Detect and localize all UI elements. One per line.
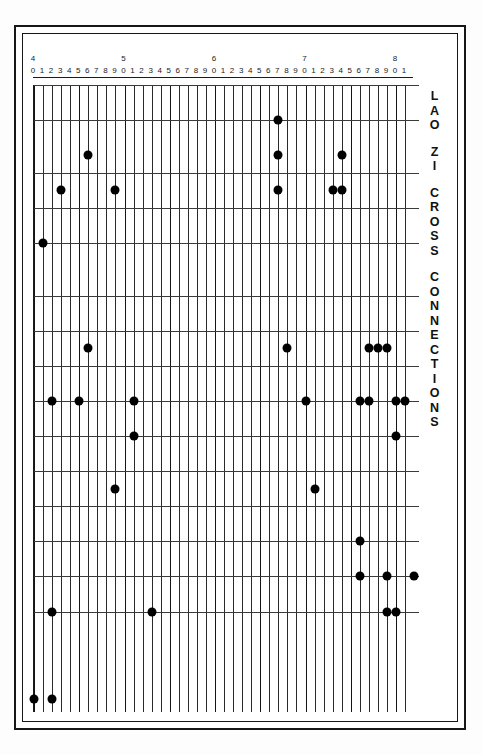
- data-point[interactable]: [283, 344, 292, 353]
- scale-unit-label: 0: [29, 66, 38, 75]
- data-point[interactable]: [337, 151, 346, 160]
- data-point[interactable]: [355, 396, 364, 405]
- scale-unit-label: 4: [155, 66, 164, 75]
- data-point[interactable]: [355, 572, 364, 581]
- scale-unit-label: 2: [47, 66, 56, 75]
- data-point[interactable]: [401, 396, 410, 405]
- grid-vertical-line: [170, 85, 171, 712]
- scale-unit-label: 6: [264, 66, 273, 75]
- data-point[interactable]: [48, 695, 57, 704]
- title-character: N: [430, 299, 439, 314]
- plot-area: 45678 0123456789012345678901234567890123…: [33, 54, 447, 712]
- scale-unit-label: 7: [273, 66, 282, 75]
- title-character: O: [430, 386, 440, 401]
- data-point[interactable]: [373, 344, 382, 353]
- grid-vertical-line: [106, 85, 107, 712]
- data-point[interactable]: [48, 607, 57, 616]
- data-point[interactable]: [129, 432, 138, 441]
- scale-decade-label: 5: [117, 54, 131, 63]
- grid-vertical-line: [34, 85, 35, 712]
- scale-unit-label: 3: [56, 66, 65, 75]
- grid-vertical-line: [387, 85, 388, 712]
- grid-vertical-line: [296, 85, 297, 712]
- title-character: O: [430, 118, 440, 133]
- scale-unit-label: 0: [300, 66, 309, 75]
- data-point[interactable]: [364, 396, 373, 405]
- grid-horizontal-line: [34, 471, 419, 472]
- data-point[interactable]: [410, 572, 419, 581]
- scale-unit-label: 0: [119, 66, 128, 75]
- title-character: S: [430, 229, 438, 244]
- grid-vertical-line: [152, 85, 153, 712]
- scale-unit-label: 6: [354, 66, 363, 75]
- scale-unit-label: 1: [219, 66, 228, 75]
- grid-vertical-line: [43, 85, 44, 712]
- data-point[interactable]: [48, 396, 57, 405]
- data-point[interactable]: [382, 344, 391, 353]
- data-point[interactable]: [392, 432, 401, 441]
- horizontal-scale: 45678 0123456789012345678901234567890123…: [33, 54, 418, 86]
- data-point[interactable]: [328, 186, 337, 195]
- grid-horizontal-line: [34, 173, 419, 174]
- scale-unit-label: 5: [164, 66, 173, 75]
- grid-vertical-line: [287, 85, 288, 712]
- grid-vertical-line: [269, 85, 270, 712]
- grid-horizontal-line: [34, 296, 419, 297]
- scale-unit-label: 8: [101, 66, 110, 75]
- title-character: C: [430, 343, 439, 358]
- figure-page: 45678 0123456789012345678901234567890123…: [0, 0, 482, 755]
- scale-decade-label: 7: [298, 54, 312, 63]
- grid-vertical-line: [197, 85, 198, 712]
- scale-unit-label: 4: [65, 66, 74, 75]
- data-point[interactable]: [355, 537, 364, 546]
- data-point[interactable]: [57, 186, 66, 195]
- data-point[interactable]: [111, 186, 120, 195]
- scale-unit-label: 5: [74, 66, 83, 75]
- data-point[interactable]: [111, 484, 120, 493]
- scale-unit-label: 1: [128, 66, 137, 75]
- scale-baseline-rule: [33, 77, 413, 78]
- data-point[interactable]: [274, 186, 283, 195]
- data-point[interactable]: [337, 186, 346, 195]
- grid-horizontal-line: [34, 243, 419, 244]
- scale-unit-label: 9: [381, 66, 390, 75]
- data-point[interactable]: [84, 151, 93, 160]
- grid-vertical-line: [70, 85, 71, 712]
- data-point[interactable]: [382, 607, 391, 616]
- scale-unit-label: 1: [309, 66, 318, 75]
- data-point[interactable]: [392, 607, 401, 616]
- data-point[interactable]: [147, 607, 156, 616]
- data-point[interactable]: [310, 484, 319, 493]
- data-point[interactable]: [30, 695, 39, 704]
- title-character: A: [430, 104, 439, 119]
- grid-vertical-line: [179, 85, 180, 712]
- data-point[interactable]: [84, 344, 93, 353]
- data-point[interactable]: [39, 238, 48, 247]
- grid-vertical-line: [260, 85, 261, 712]
- data-point[interactable]: [364, 344, 373, 353]
- grid-vertical-line: [161, 85, 162, 712]
- scale-unit-label: 1: [400, 66, 409, 75]
- scale-unit-label: 3: [146, 66, 155, 75]
- grid-vertical-line: [125, 85, 126, 712]
- title-character: O: [430, 285, 440, 300]
- data-point[interactable]: [392, 396, 401, 405]
- scale-unit-label: 3: [327, 66, 336, 75]
- title-character: N: [430, 314, 439, 329]
- title-character: S: [430, 415, 438, 430]
- data-point[interactable]: [274, 151, 283, 160]
- data-point[interactable]: [301, 396, 310, 405]
- title-character: N: [430, 401, 439, 416]
- grid-vertical-line: [342, 85, 343, 712]
- grid-vertical-line: [215, 85, 216, 712]
- grid-horizontal-line: [34, 120, 419, 121]
- scale-unit-label: 3: [237, 66, 246, 75]
- data-point[interactable]: [75, 396, 84, 405]
- scale-unit-label: 2: [318, 66, 327, 75]
- data-point[interactable]: [382, 572, 391, 581]
- scale-decade-label: 8: [388, 54, 402, 63]
- data-point[interactable]: [129, 396, 138, 405]
- grid-vertical-line: [278, 85, 279, 712]
- grid-vertical-line: [115, 85, 116, 712]
- data-point[interactable]: [274, 116, 283, 125]
